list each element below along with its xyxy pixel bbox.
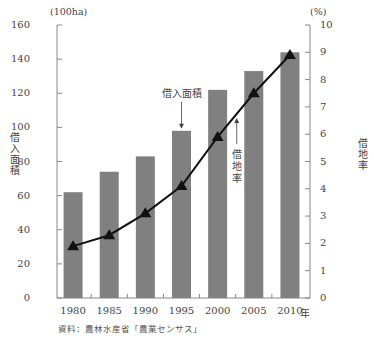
source-note: 資料：農林水産省「農業センサス」 (58, 322, 202, 334)
bar-annotation-label: 借入面積 (162, 87, 202, 99)
bar (172, 131, 191, 298)
bar (280, 52, 299, 298)
line-annotation-char: 借 (232, 149, 242, 160)
bar (244, 71, 263, 298)
line-annotation-char: 率 (232, 172, 242, 184)
chart-plot: 借入面積借地率 (0, 0, 374, 349)
bar (136, 156, 155, 298)
bar (208, 90, 227, 298)
line-annotation-char: 地 (232, 160, 242, 172)
